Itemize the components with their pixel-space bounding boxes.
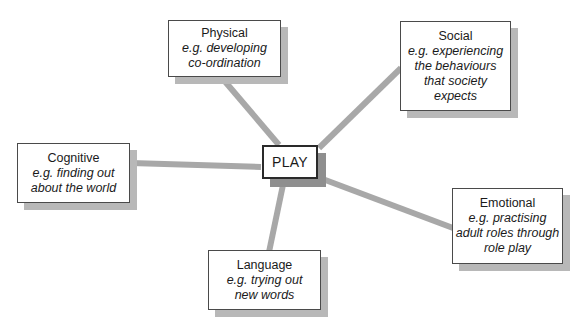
connector-play-language [269, 180, 284, 252]
node-emotional-detail-line-3: role play [484, 241, 531, 256]
node-emotional-detail-line-1: e.g. practising [469, 211, 547, 226]
node-play-label: PLAY [272, 155, 308, 170]
node-physical[interactable]: Physical e.g. developing co-ordination [168, 20, 281, 77]
node-emotional-detail-line-2: adult roles through [456, 226, 560, 241]
node-social[interactable]: Social e.g. experiencing the behaviours … [400, 21, 511, 111]
play-mind-map-diagram: Physical e.g. developing co-ordination S… [0, 0, 587, 330]
node-cognitive-detail-line-2: about the world [31, 181, 116, 196]
connector-play-physical [222, 78, 279, 145]
node-cognitive[interactable]: Cognitive e.g. finding out about the wor… [17, 143, 130, 203]
node-play-center[interactable]: PLAY [262, 145, 318, 179]
node-social-title: Social [438, 29, 472, 44]
node-language-detail-line-1: e.g. trying out [227, 273, 303, 288]
connector-play-social [319, 68, 401, 148]
node-social-detail-line-2: the behaviours [414, 59, 496, 74]
connector-play-emotional [320, 178, 453, 228]
node-physical-title: Physical [201, 26, 248, 41]
node-social-detail-line-1: e.g. experiencing [408, 44, 503, 59]
node-language-detail-line-2: new words [235, 288, 295, 303]
node-social-detail-line-3: that society [424, 74, 487, 89]
node-social-detail-line-4: expects [434, 89, 477, 104]
node-cognitive-detail-line-1: e.g. finding out [32, 166, 114, 181]
node-language-title: Language [237, 258, 293, 273]
connector-play-cognitive [131, 163, 261, 167]
node-language[interactable]: Language e.g. trying out new words [208, 250, 321, 310]
node-emotional-title: Emotional [480, 196, 536, 211]
node-physical-detail-line-1: e.g. developing [182, 41, 267, 56]
node-emotional[interactable]: Emotional e.g. practising adult roles th… [452, 188, 563, 264]
node-cognitive-title: Cognitive [47, 151, 99, 166]
node-physical-detail-line-2: co-ordination [188, 56, 260, 71]
